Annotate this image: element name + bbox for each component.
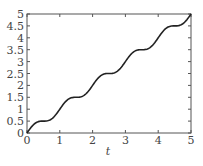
x-axis-ticks: 012345	[24, 14, 195, 147]
y-tick-label: 3	[17, 56, 24, 69]
y-tick-label: 1.5	[7, 91, 25, 104]
x-tick-label: 0	[24, 134, 31, 147]
y-tick-label: 3.5	[7, 44, 25, 57]
y-axis-ticks: 00.511.522.533.544.55	[7, 8, 192, 140]
y-tick-label: 2.5	[7, 68, 25, 81]
line-chart: 00.511.522.533.544.55 012345 t	[0, 0, 203, 166]
y-tick-label: 5	[17, 8, 24, 21]
y-tick-label: 1	[17, 103, 24, 116]
x-tick-label: 1	[56, 134, 63, 147]
x-axis-label: t	[106, 145, 111, 158]
x-tick-label: 2	[89, 134, 96, 147]
y-tick-label: 2	[17, 79, 24, 92]
data-curve	[27, 14, 191, 133]
x-tick-label: 5	[188, 134, 195, 147]
y-tick-label: 0.5	[7, 115, 25, 128]
y-tick-label: 4	[17, 32, 24, 45]
y-tick-label: 4.5	[7, 20, 25, 33]
x-tick-label: 3	[122, 134, 129, 147]
x-tick-label: 4	[155, 134, 162, 147]
